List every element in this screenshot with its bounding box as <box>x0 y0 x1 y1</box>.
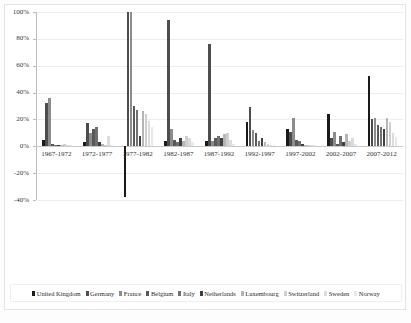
legend-swatch-icon <box>200 291 203 296</box>
y-axis-tick <box>33 200 36 201</box>
zero-line <box>37 146 403 147</box>
bar <box>69 145 72 146</box>
y-axis-tick-label: 100% <box>0 9 29 16</box>
bar <box>273 145 276 146</box>
plot-wrapper <box>36 12 402 200</box>
legend-item[interactable]: Germany <box>86 290 115 297</box>
bar <box>354 144 357 147</box>
y-axis-tick-label: 0% <box>0 143 29 150</box>
legend-label: Italy <box>183 290 195 297</box>
bar <box>110 145 113 146</box>
y-axis-tick <box>33 119 36 120</box>
legend-label: Switzerland <box>288 290 319 297</box>
chart-legend: United KingdomGermanyFranceBelgiumItalyN… <box>10 284 402 302</box>
legend-label: United Kingdom <box>37 290 81 297</box>
bar <box>313 145 316 146</box>
legend-swatch-icon <box>119 291 122 296</box>
gridline <box>37 12 403 13</box>
y-axis-tick <box>33 39 36 40</box>
legend-item[interactable]: Italy <box>178 290 194 297</box>
bar <box>48 98 51 146</box>
bar <box>395 137 398 146</box>
legend-swatch-icon <box>86 291 89 296</box>
legend-item[interactable]: France <box>119 290 141 297</box>
y-axis-tick <box>33 93 36 94</box>
legend-item[interactable]: Norway <box>354 290 379 297</box>
gridline <box>37 119 403 120</box>
gridline <box>37 39 403 40</box>
legend-label: Luxembourg <box>245 290 278 297</box>
gridline <box>37 93 403 94</box>
legend-item[interactable]: United Kingdom <box>32 290 80 297</box>
gridline <box>37 66 403 67</box>
x-axis-tick-label: 1977-1982 <box>117 150 158 158</box>
x-axis-tick-label: 1967-1972 <box>36 150 77 158</box>
x-axis-tick-label: 1987-1992 <box>199 150 240 158</box>
bar <box>191 142 194 146</box>
gridline <box>37 173 403 174</box>
y-axis-tick-label: 60% <box>0 62 29 69</box>
legend-swatch-icon <box>284 291 287 296</box>
y-axis-tick <box>33 173 36 174</box>
bar <box>208 44 211 146</box>
y-axis-tick <box>33 66 36 67</box>
y-axis-tick-label: 40% <box>0 89 29 96</box>
x-axis-tick-label: 2007-2012 <box>361 150 402 158</box>
y-axis-tick-label: -20% <box>0 170 29 177</box>
y-axis-tick <box>33 146 36 147</box>
bar <box>167 20 170 146</box>
legend-swatch-icon <box>324 291 327 296</box>
y-axis-tick-label: 20% <box>0 116 29 123</box>
legend-item[interactable]: Luxembourg <box>241 290 279 297</box>
legend-swatch-icon <box>32 291 35 296</box>
chart-screenshot: 100%80%60%40%20%0%-20%-40% 1967-19721972… <box>0 0 411 323</box>
legend-label: Sweden <box>329 290 350 297</box>
gridline <box>37 200 403 201</box>
x-axis-tick-label: 1997-2002 <box>280 150 321 158</box>
legend-label: France <box>124 290 142 297</box>
legend-swatch-icon <box>354 291 357 296</box>
legend-label: Netherlands <box>204 290 235 297</box>
legend-label: Belgium <box>151 290 173 297</box>
bar <box>232 144 235 147</box>
legend-item[interactable]: Sweden <box>324 290 349 297</box>
x-axis-tick-label: 1982-1987 <box>158 150 199 158</box>
legend-item[interactable]: Netherlands <box>200 290 236 297</box>
x-axis-tick-label: 2002-2007 <box>321 150 362 158</box>
y-axis-tick-label: -40% <box>0 197 29 204</box>
legend-item[interactable]: Switzerland <box>284 290 320 297</box>
legend-label: Norway <box>359 290 380 297</box>
legend-swatch-icon <box>178 291 181 296</box>
y-axis-tick <box>33 12 36 13</box>
x-axis-tick-label: 1992-1997 <box>239 150 280 158</box>
plot-area <box>36 12 402 200</box>
legend-item[interactable]: Belgium <box>146 290 173 297</box>
legend-swatch-icon <box>146 291 149 296</box>
legend-swatch-icon <box>241 291 244 296</box>
legend-label: Germany <box>90 290 114 297</box>
x-axis-tick-label: 1972-1977 <box>77 150 118 158</box>
y-axis-tick-label: 80% <box>0 35 29 42</box>
bar <box>151 127 154 146</box>
